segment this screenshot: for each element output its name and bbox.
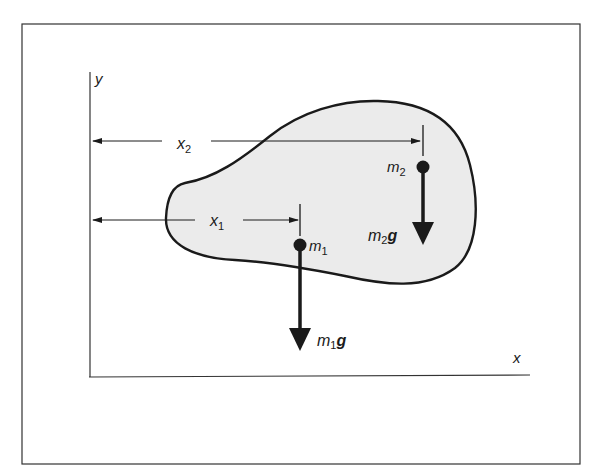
m1g-mass: m [317,332,330,349]
x-axis-label: x [512,349,521,366]
x-axis [89,375,530,377]
svg-text:m1g: m1g [317,332,346,351]
x1-subscript: 1 [218,220,224,232]
m2-subscript: 2 [400,166,406,178]
svg-text:x2: x2 [176,135,191,155]
m2g-mass: m [368,227,381,244]
m1-subscript: 1 [322,245,328,257]
center-of-gravity-diagram: y x x2 x1 m2 m2g m1 m1g [0,0,592,476]
m1g-gravity-vector: g [335,332,346,349]
y-axis-label: y [94,70,104,87]
m2-label: m [387,158,400,175]
m1-label: m [309,237,322,254]
m2g-gravity-vector: g [386,227,397,244]
m1-weight-arrowhead [289,328,311,351]
x2-subscript: 2 [185,143,191,155]
